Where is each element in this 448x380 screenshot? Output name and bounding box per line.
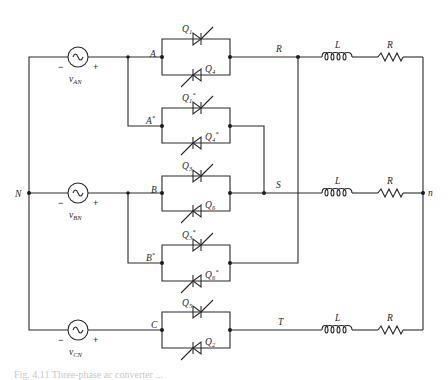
source-vBN [68,183,88,203]
thyristor-Q1-star [193,96,213,114]
vAN-plus: + [93,62,98,72]
inductor-icon [322,326,352,334]
vAN-label: vAN [69,74,82,85]
line-S: S [230,126,322,195]
resistor-icon [378,189,403,197]
node-N-label: N [14,189,22,199]
Q1-star-label: Q1* [182,91,196,104]
line-T: T [230,317,322,330]
source-vAN [68,47,88,67]
Q4-label: Q4 [205,64,216,75]
figure-caption: Fig. 4.11 Three-phase ac converter ... [14,369,163,380]
thyristor-Q3-star [193,233,213,251]
Q4-star-label: Q4* [205,130,219,143]
neutral-bus: N [14,57,68,330]
resistor-R-label: R [386,40,393,50]
thyristor-Q5 [193,300,213,318]
node-n-label: n [428,188,433,198]
Q6-star-label: Q6* [205,268,219,281]
inductor-icon [322,189,352,197]
switch-pair-A: A Q1 Q4 [149,24,232,87]
vCN-minus: − [58,335,63,345]
vAN-minus: − [58,62,63,72]
resistor-R-label: R [386,176,393,186]
Q3-star-label: Q3* [182,228,196,241]
vBN-minus: − [58,198,63,208]
switch-pair-B: B Q3 Q6 [151,161,232,223]
vCN-plus: + [93,335,98,345]
inductor-L-label: L [334,40,340,50]
line-R-label: R [275,44,282,54]
node-B-label: B [151,185,157,195]
node-B-star-label: B* [146,251,156,263]
resistor-icon [378,326,403,334]
load-S-phase: L R [322,176,423,197]
resistor-icon [378,53,403,61]
thyristor-Q3 [193,164,213,182]
thyristor-Q4-star [181,137,201,155]
thyristor-Q4 [181,69,201,87]
Q2-label: Q2 [205,337,216,348]
thyristor-Q2 [181,342,201,360]
vCN-label: vCN [69,347,83,358]
Q5-label: Q5 [182,298,193,309]
node-A-star-label: A* [145,114,156,126]
load-R-phase: L R [322,40,423,61]
thyristor-Q1 [193,27,213,45]
Q1-label: Q1 [182,24,192,35]
load-star-bus: n [421,57,433,330]
switch-pair-C: C Q5 Q2 [151,298,232,360]
load-T-phase: L R [322,313,423,334]
inductor-icon [322,53,352,61]
line-T-label: T [278,317,284,327]
node-C-label: C [151,320,158,330]
inductor-L-label: L [334,176,340,186]
Q3-label: Q3 [182,161,193,172]
node-A-label: A [149,49,156,59]
source-vCN [68,320,88,340]
Q6-label: Q6 [205,200,216,211]
switch-pair-A-star: A* Q1* Q4* [145,91,232,155]
thyristor-Q6-star [181,275,201,293]
resistor-R-label: R [386,313,393,323]
vBN-label: vBN [69,210,82,221]
line-R: R [230,44,322,263]
switch-pair-B-star: B* Q3* Q6* [146,228,232,293]
thyristor-Q6 [181,205,201,223]
vBN-plus: + [93,198,98,208]
inductor-L-label: L [334,313,340,323]
line-S-label: S [276,180,281,190]
